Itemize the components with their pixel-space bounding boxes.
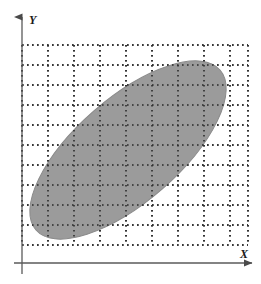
coordinate-plot-figure: X Y	[0, 0, 261, 284]
shaded-region-group	[2, 31, 254, 270]
y-axis-label: Y	[29, 13, 38, 27]
shaded-ellipse-region	[2, 31, 254, 270]
plot-canvas: X Y	[0, 0, 261, 284]
x-axis-label: X	[239, 247, 249, 261]
